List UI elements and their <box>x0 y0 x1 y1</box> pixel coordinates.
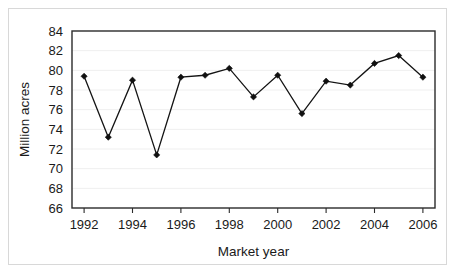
x-axis-tick-label: 1998 <box>215 217 244 232</box>
y-axis-tick-label: 80 <box>49 63 63 78</box>
y-axis-tick-label: 70 <box>49 161 63 176</box>
line-chart: 8482807876747270686619921994199619982000… <box>9 9 446 264</box>
plot-area-frame <box>72 31 435 208</box>
y-axis-tick-label: 74 <box>49 122 63 137</box>
y-axis-title: Million acres <box>17 82 32 157</box>
x-axis-tick-label: 2004 <box>360 217 389 232</box>
y-axis-tick-label: 82 <box>49 43 63 58</box>
x-axis-tick-label: 1996 <box>166 217 195 232</box>
y-axis-tick-label: 66 <box>49 201 63 216</box>
x-axis-tick-label: 1992 <box>70 217 99 232</box>
x-axis-tick-label: 2002 <box>312 217 341 232</box>
y-axis-tick-label: 76 <box>49 102 63 117</box>
y-axis-tick-label: 68 <box>49 181 63 196</box>
x-axis-tick-label: 1994 <box>118 217 147 232</box>
y-axis-tick-label: 84 <box>49 24 63 39</box>
x-axis-tick-label: 2000 <box>263 217 292 232</box>
x-axis-title: Market year <box>218 244 290 259</box>
x-axis-tick-label: 2006 <box>408 217 437 232</box>
figure-container: 8482807876747270686619921994199619982000… <box>8 8 447 265</box>
y-axis-tick-label: 72 <box>49 142 63 157</box>
y-axis-tick-label: 78 <box>49 83 63 98</box>
